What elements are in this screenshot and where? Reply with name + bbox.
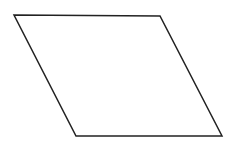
diagram-canvas <box>0 0 234 149</box>
parallelogram-shape <box>14 15 222 136</box>
